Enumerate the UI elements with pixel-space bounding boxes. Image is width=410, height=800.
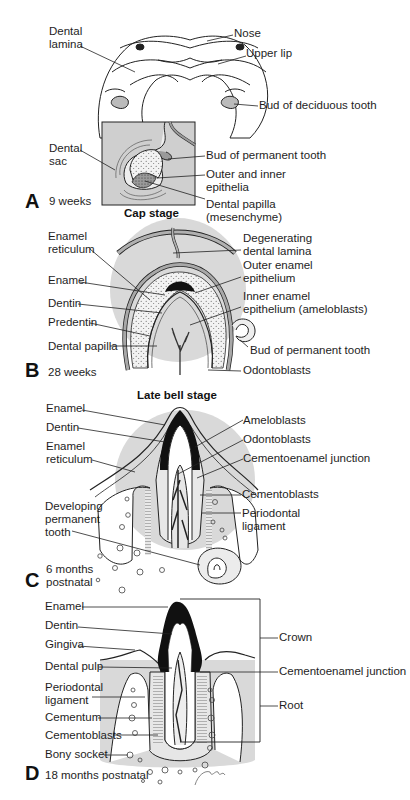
label-root: Root xyxy=(279,699,303,712)
label-crown: Crown xyxy=(279,631,312,644)
label-periodontal-ligament-d: Periodontal ligament xyxy=(45,681,103,707)
label-cementoblasts-c: Cementoblasts xyxy=(242,488,319,501)
label-enamel-c: Enamel xyxy=(46,402,85,415)
label-dental-sac: Dental sac xyxy=(49,142,82,168)
label-degenerating-dental-lamina: Degenerating dental lamina xyxy=(243,232,312,258)
label-dental-pulp: Dental pulp xyxy=(45,660,103,673)
label-ameloblasts: Ameloblasts xyxy=(243,414,306,427)
panel-letter-a: A xyxy=(25,191,39,211)
label-dentin-c: Dentin xyxy=(46,421,79,434)
label-dentin-b: Dentin xyxy=(48,297,81,310)
label-outer-inner-epithelia: Outer and inner epithelia xyxy=(206,168,286,194)
label-outer-enamel-epithelium: Outer enamel epithelium xyxy=(243,259,313,285)
late-bell-stage-drawing xyxy=(110,218,255,375)
panel-age-d: 18 months postnatal xyxy=(45,769,149,782)
label-upper-lip: Upper lip xyxy=(246,47,292,60)
panel-letter-d: D xyxy=(25,763,39,783)
label-odontoblasts-b: Odontoblasts xyxy=(243,364,311,377)
panel-letter-c: C xyxy=(25,570,39,590)
label-gingiva: Gingiva xyxy=(45,638,84,651)
panel-letter-b: B xyxy=(25,360,39,380)
cap-stage-inset xyxy=(102,122,195,205)
label-dentin-d: Dentin xyxy=(45,619,78,632)
panel-age-a: 9 weeks xyxy=(49,195,91,208)
label-bud-deciduous-tooth: Bud of deciduous tooth xyxy=(259,99,377,112)
panel-age-b: 28 weeks xyxy=(48,366,97,379)
label-bud-permanent-tooth-b: Bud of permanent tooth xyxy=(250,344,370,357)
label-enamel-reticulum-b: Enamel reticulum xyxy=(48,230,95,256)
label-inner-enamel-epithelium: Inner enamel epithelium (ameloblasts) xyxy=(243,290,368,316)
label-enamel-reticulum-c: Enamel reticulum xyxy=(46,440,93,466)
label-dental-papilla-b: Dental papilla xyxy=(48,340,118,353)
label-cementoenamel-junction-c: Cementoenamel junction xyxy=(243,452,370,465)
label-nose: Nose xyxy=(234,27,261,40)
label-cementoblasts-d: Cementoblasts xyxy=(45,729,122,742)
label-developing-permanent-tooth: Developing permanent tooth xyxy=(45,500,103,539)
label-bud-permanent-tooth: Bud of permanent tooth xyxy=(206,149,326,162)
label-periodontal-ligament-c: Periodontal ligament xyxy=(242,507,300,533)
label-cementoenamel-junction-d: Cementoenamel junction xyxy=(279,665,406,678)
six-months-drawing xyxy=(90,408,258,594)
stage-title-late-bell: Late bell stage xyxy=(137,389,217,402)
stage-title-cap: Cap stage xyxy=(124,207,179,220)
label-odontoblasts-c: Odontoblasts xyxy=(243,433,311,446)
label-predentin: Predentin xyxy=(48,316,97,329)
label-enamel-d: Enamel xyxy=(45,600,84,613)
panel-age-c: 6 months postnatal xyxy=(46,563,93,589)
eighteen-months-drawing xyxy=(100,599,260,785)
label-enamel-b: Enamel xyxy=(48,274,87,287)
label-dental-papilla-mesenchyme: Dental papilla (mesenchyme) xyxy=(206,198,282,224)
label-dental-lamina: Dental lamina xyxy=(49,25,83,51)
label-cementum: Cementum xyxy=(45,711,101,724)
label-bony-socket: Bony socket xyxy=(45,748,108,761)
